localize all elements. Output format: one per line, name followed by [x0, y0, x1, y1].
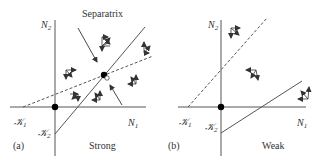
- panel-caption-a: Strong: [89, 140, 116, 151]
- separatrix-arrow-bottom: [110, 85, 122, 105]
- k2-label-a: 𝒦2: [38, 127, 51, 140]
- vector-glyph: [66, 70, 76, 79]
- n2-axis-label-a: N2: [40, 19, 52, 32]
- dashed-nullcline-b: [188, 18, 267, 107]
- vector-glyph: [70, 94, 78, 101]
- panel-b: N2 N1 𝒦1 𝒦2 (b) Weak: [168, 18, 309, 156]
- separatrix-arrow-top: [78, 28, 97, 62]
- vector-glyph: [144, 42, 150, 53]
- vector-glyph: [102, 38, 110, 51]
- k1-label-b: 𝒦1: [179, 116, 192, 129]
- diagram-canvas: N2 Separatrix N1 𝒦1 𝒦2 (a) Strong N2: [0, 0, 324, 159]
- vector-glyph: [298, 87, 309, 99]
- n1-axis-label-b: N1: [296, 117, 307, 130]
- saddle-open-circle-a: [105, 76, 109, 80]
- vector-glyph: [92, 91, 100, 100]
- origin-equilibrium-b: [218, 104, 224, 110]
- n1-axis-label-a: N1: [127, 117, 138, 130]
- n2-axis-label-b: N2: [207, 19, 219, 32]
- vector-glyph: [128, 75, 136, 84]
- panel-caption-b: Weak: [262, 140, 285, 151]
- vector-glyph: [231, 28, 240, 38]
- k1-label-a: 𝒦1: [14, 116, 27, 129]
- separatrix-label: Separatrix: [82, 8, 123, 19]
- origin-equilibrium-a: [52, 104, 58, 110]
- vector-glyph: [246, 70, 258, 80]
- panel-tag-a: (a): [13, 140, 24, 152]
- k2-label-b: 𝒦2: [205, 121, 218, 134]
- panel-a: N2 Separatrix N1 𝒦1 𝒦2 (a) Strong: [10, 8, 153, 156]
- panel-tag-b: (b): [168, 140, 180, 152]
- dashed-nullcline-a: [23, 56, 153, 107]
